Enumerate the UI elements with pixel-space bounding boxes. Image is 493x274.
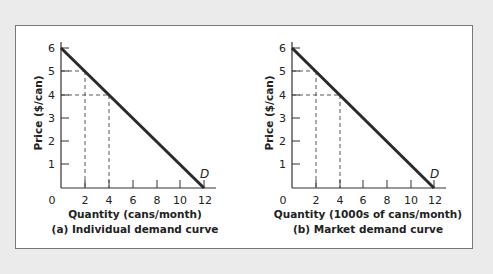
svg-text:4: 4 (337, 194, 344, 207)
svg-text:6: 6 (130, 194, 137, 207)
x-axis-label: Quantity (1000s of cans/month) (274, 208, 462, 220)
svg-text:2: 2 (48, 135, 55, 148)
svg-text:10: 10 (173, 194, 187, 207)
svg-text:3: 3 (48, 112, 55, 125)
svg-text:6: 6 (279, 42, 286, 55)
demand-charts: D 6 5 4 3 2 1 0 2 4 6 8 10 12 Price ($/c… (0, 0, 493, 274)
x-ticks (85, 180, 204, 188)
y-tick-labels: 6 5 4 3 2 1 (48, 42, 55, 171)
svg-text:4: 4 (106, 194, 113, 207)
svg-text:0: 0 (49, 194, 56, 207)
y-ticks (61, 48, 69, 164)
demand-curve-label: D (200, 167, 209, 181)
svg-text:8: 8 (384, 194, 391, 207)
panel-caption: (a) Individual demand curve (52, 223, 219, 235)
svg-text:5: 5 (279, 65, 286, 78)
panel-caption: (b) Market demand curve (293, 223, 443, 235)
svg-text:12: 12 (198, 194, 212, 207)
panel-individual-demand: D 6 5 4 3 2 1 0 2 4 6 8 10 12 Price ($/c… (32, 42, 218, 235)
panel-market-demand: D 6 5 4 3 2 1 0 2 4 6 8 10 12 Price ($/c… (263, 42, 462, 235)
svg-text:1: 1 (48, 158, 55, 171)
svg-text:12: 12 (428, 194, 442, 207)
y-axis-label: Price ($/can) (263, 76, 275, 151)
svg-text:6: 6 (360, 194, 367, 207)
svg-text:6: 6 (48, 42, 55, 55)
demand-curve-line (61, 48, 204, 188)
svg-text:1: 1 (279, 158, 286, 171)
x-axis-label: Quantity (cans/month) (68, 208, 202, 220)
y-axis-label: Price ($/can) (32, 76, 44, 151)
y-tick-labels: 6 5 4 3 2 1 (279, 42, 286, 171)
y-ticks (292, 48, 300, 164)
svg-text:2: 2 (82, 194, 89, 207)
figure: D 6 5 4 3 2 1 0 2 4 6 8 10 12 Price ($/c… (0, 0, 493, 274)
svg-text:10: 10 (404, 194, 418, 207)
svg-text:0: 0 (280, 194, 287, 207)
x-tick-labels: 0 2 4 6 8 10 12 (280, 194, 443, 207)
demand-curve-line (292, 48, 434, 188)
demand-curve-label: D (430, 167, 439, 181)
x-ticks (316, 180, 434, 188)
svg-text:2: 2 (313, 194, 320, 207)
svg-text:2: 2 (279, 135, 286, 148)
svg-text:4: 4 (279, 89, 286, 102)
svg-text:8: 8 (154, 194, 161, 207)
x-tick-labels: 0 2 4 6 8 10 12 (49, 194, 213, 207)
svg-text:3: 3 (279, 112, 286, 125)
svg-text:5: 5 (48, 65, 55, 78)
svg-text:4: 4 (48, 89, 55, 102)
